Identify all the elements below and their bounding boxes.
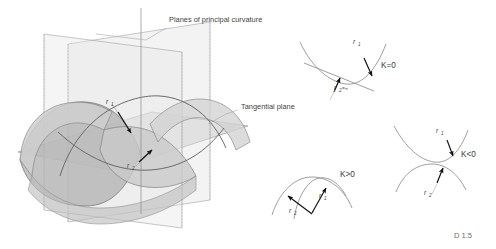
k-negative-r2-arrow (437, 168, 443, 183)
k-zero-r1-subscript: 1 (358, 42, 361, 47)
main-r2-subscript: 2 (131, 166, 135, 171)
k-negative-curve-r1 (394, 126, 468, 162)
k-zero-curve-r1 (300, 42, 386, 84)
planes-of-principal-curvature-label: Planes of principal curvature (169, 15, 262, 24)
k-negative-r2-symbol: r (424, 189, 427, 196)
k-zero-r2-label: r 2 =∞ (334, 84, 348, 93)
k-negative-r2-label: r 2 (424, 189, 432, 198)
k-zero-r1-symbol: r (353, 38, 356, 45)
principal-curvature-figure: r 1 r 2 Planes of principal curvature Ta… (0, 0, 496, 249)
k-negative-r1-subscript: 1 (441, 131, 444, 136)
k-positive-r2-subscript: 2 (293, 211, 297, 216)
figure-caption: D 1.5 (454, 231, 472, 240)
k-positive-curvature-label: K>0 (340, 170, 355, 179)
figure-canvas: r 1 r 2 Planes of principal curvature Ta… (0, 0, 496, 249)
saddle-surface-scene (18, 8, 250, 228)
inset-k-positive: r 1 r 2 K>0 (272, 170, 355, 219)
k-zero-curvature-label: K=0 (381, 61, 396, 70)
k-zero-r2-leader (330, 90, 335, 100)
k-negative-curve-r2 (396, 164, 466, 192)
k-negative-r2-leader (432, 184, 437, 194)
k-negative-r2-subscript: 2 (428, 193, 432, 198)
k-zero-curve-r2-straight (304, 63, 374, 91)
k-negative-r1-arrow (447, 140, 453, 156)
k-positive-curve-r2 (272, 177, 352, 215)
k-positive-r2-symbol: r (289, 207, 292, 214)
k-negative-r1-symbol: r (436, 127, 439, 134)
main-r1-subscript: 1 (111, 102, 114, 107)
k-zero-r2-value: =∞ (342, 86, 348, 91)
k-positive-r1-subscript: 1 (324, 196, 327, 201)
k-negative-curvature-label: K<0 (461, 150, 476, 159)
k-zero-r1-arrow (364, 58, 372, 76)
k-negative-r1-label: r 1 (436, 127, 444, 136)
inset-k-negative: r 1 r 2 K<0 (394, 126, 476, 198)
k-zero-r1-label: r 1 (353, 38, 361, 47)
inset-k-zero: r 1 r 2 =∞ K=0 (300, 38, 396, 100)
tangential-plane-label: Tangential plane (241, 102, 295, 111)
